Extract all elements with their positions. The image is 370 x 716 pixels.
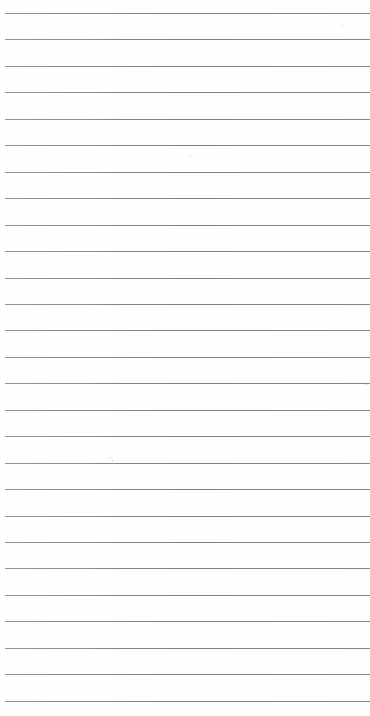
ruled-line	[5, 66, 370, 67]
ruled-line	[5, 621, 370, 622]
ruled-line	[5, 357, 370, 358]
scan-speck	[190, 155, 191, 156]
ruled-line	[5, 145, 370, 146]
ruled-line	[5, 304, 370, 305]
ruled-line	[5, 92, 370, 93]
ruled-line	[5, 568, 370, 569]
scan-speck	[112, 460, 113, 461]
ruled-line	[5, 119, 370, 120]
ruled-line	[5, 39, 370, 40]
ruled-line	[5, 463, 370, 464]
ruled-line	[5, 330, 370, 331]
ruled-line	[5, 172, 370, 173]
ruled-line	[5, 410, 370, 411]
ruled-line	[5, 436, 370, 437]
ruled-line	[5, 251, 370, 252]
scan-speck	[342, 25, 343, 26]
ruled-line	[5, 225, 370, 226]
scan-speck	[110, 457, 111, 458]
ruled-line	[5, 198, 370, 199]
ruled-line	[5, 701, 370, 702]
ruled-line	[5, 595, 370, 596]
ruled-line	[5, 674, 370, 675]
ruled-line	[5, 13, 370, 14]
ruled-line	[5, 516, 370, 517]
ruled-line	[5, 383, 370, 384]
ruled-line	[5, 489, 370, 490]
ruled-line	[5, 648, 370, 649]
scan-speck	[366, 384, 367, 385]
lined-paper-sheet	[0, 0, 370, 716]
ruled-line	[5, 542, 370, 543]
ruled-line	[5, 278, 370, 279]
